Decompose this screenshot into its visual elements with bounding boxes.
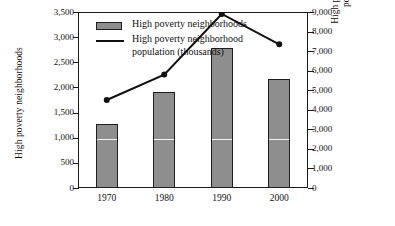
y-axis-left-tick-mark bbox=[73, 188, 79, 189]
legend-label-line-1: High poverty neighborhood bbox=[132, 33, 243, 46]
y-axis-left-tick-label: 500 bbox=[40, 158, 74, 167]
y-axis-left-tick-label: 2,500 bbox=[40, 58, 74, 67]
y-axis-left-tick-label: 3,000 bbox=[40, 33, 74, 42]
y-axis-left-tick-mark bbox=[73, 37, 79, 38]
x-axis-tick-label: 1970 bbox=[87, 193, 127, 203]
legend-label-bars: High poverty neighborhoods bbox=[132, 18, 247, 31]
y-axis-right-tick-label: 0 bbox=[312, 184, 346, 193]
legend-item-line: High poverty neighborhood population (th… bbox=[96, 33, 306, 59]
x-axis-labels: 1970198019902000 bbox=[78, 191, 308, 207]
y-axis-left-title: High poverty neighborhoods bbox=[14, 28, 24, 178]
legend-label-line-2: population (thousands) bbox=[132, 46, 243, 59]
y-axis-left-tick-mark bbox=[73, 113, 79, 114]
y-axis-right-tick-mark bbox=[308, 90, 314, 91]
y-axis-right-tick-mark bbox=[308, 110, 314, 111]
y-axis-left-tick-label: 1,000 bbox=[40, 133, 74, 142]
y-axis-right-tick-mark bbox=[308, 51, 314, 52]
y-axis-right-tick-label: 9,000 bbox=[312, 8, 346, 17]
x-axis-tick-label: 1990 bbox=[202, 193, 242, 203]
y-axis-right-tick-mark bbox=[308, 12, 314, 13]
y-axis-left-tick-mark bbox=[73, 12, 79, 13]
y-axis-left-tick-mark bbox=[73, 87, 79, 88]
y-axis-left-tick-label: 3,500 bbox=[40, 8, 74, 17]
chart-legend: High poverty neighborhoods High poverty … bbox=[96, 18, 306, 59]
y-axis-right-tick-label: 2,000 bbox=[312, 144, 346, 153]
y-axis-right-tick-label: 5,000 bbox=[312, 86, 346, 95]
x-axis-tick-label: 2000 bbox=[259, 193, 299, 203]
line-data-point bbox=[161, 72, 167, 78]
x-axis-tick-label: 1980 bbox=[144, 193, 184, 203]
y-axis-left-tick-mark bbox=[73, 138, 79, 139]
y-axis-right-tick-mark bbox=[308, 129, 314, 130]
y-axis-right-tick-mark bbox=[308, 149, 314, 150]
y-axis-left-tick-label: 2,000 bbox=[40, 83, 74, 92]
legend-bar-swatch-icon bbox=[96, 22, 122, 30]
y-axis-right-tick-mark bbox=[308, 168, 314, 169]
y-axis-right-tick-mark bbox=[308, 71, 314, 72]
line-data-point bbox=[104, 97, 110, 103]
y-axis-left-ticks: 05001,0001,5002,0002,5003,0003,500 bbox=[36, 0, 74, 226]
y-axis-left-tick-label: 1,500 bbox=[40, 108, 74, 117]
y-axis-right-tick-mark bbox=[308, 32, 314, 33]
y-axis-right-tick-label: 7,000 bbox=[312, 47, 346, 56]
legend-line-swatch-icon bbox=[96, 40, 124, 42]
y-axis-right-tick-label: 4,000 bbox=[312, 105, 346, 114]
y-axis-right-tick-label: 1,000 bbox=[312, 164, 346, 173]
y-axis-left-tick-mark bbox=[73, 62, 79, 63]
y-axis-left-tick-label: 0 bbox=[40, 184, 74, 193]
legend-item-bars: High poverty neighborhoods bbox=[96, 18, 306, 33]
y-axis-right-tick-label: 6,000 bbox=[312, 66, 346, 75]
y-axis-right-tick-label: 8,000 bbox=[312, 27, 346, 36]
y-axis-right-tick-label: 3,000 bbox=[312, 125, 346, 134]
legend-label-line: High poverty neighborhood population (th… bbox=[132, 33, 243, 58]
y-axis-left-tick-mark bbox=[73, 163, 79, 164]
y-axis-right-ticks: 01,0002,0003,0004,0005,0006,0007,0008,00… bbox=[312, 0, 350, 226]
y-axis-right-tick-mark bbox=[308, 188, 314, 189]
chart-container: High poverty neighborhoods High poverty … bbox=[0, 0, 395, 226]
